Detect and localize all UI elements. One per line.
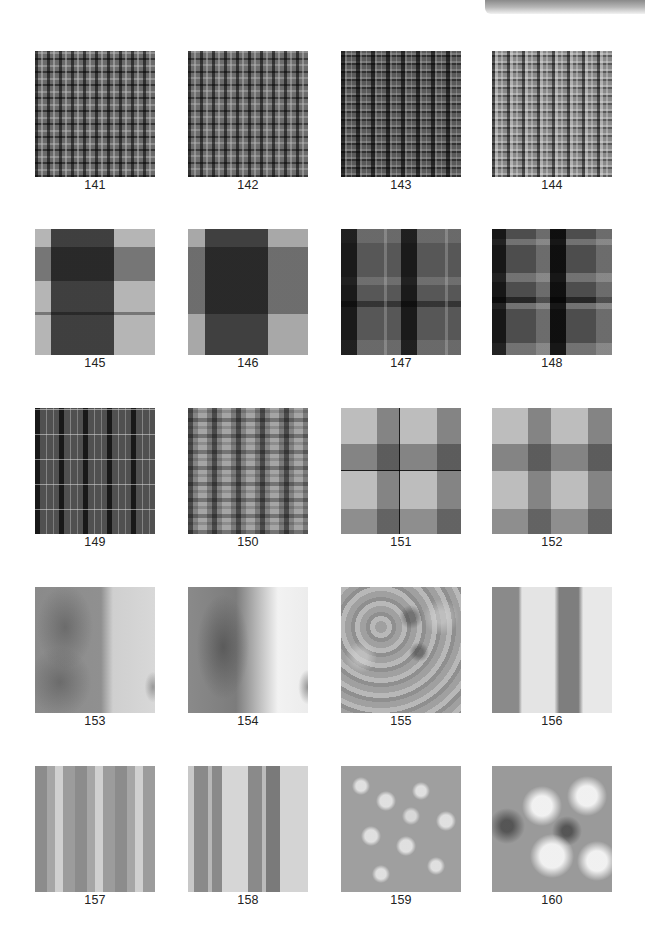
texture-swatch — [492, 229, 612, 355]
tile-label: 157 — [35, 893, 155, 907]
tile-label: 159 — [341, 893, 461, 907]
tile-label: 152 — [492, 535, 612, 549]
texture-tile-153[interactable]: 153 — [35, 587, 155, 728]
texture-swatch — [35, 51, 155, 177]
texture-swatch — [492, 51, 612, 177]
tile-label: 144 — [492, 178, 612, 192]
texture-swatch — [188, 229, 308, 355]
tile-label: 160 — [492, 893, 612, 907]
texture-tile-143[interactable]: 143 — [341, 51, 461, 192]
texture-swatch — [188, 766, 308, 892]
tile-label: 145 — [35, 356, 155, 370]
texture-tile-160[interactable]: 160 — [492, 766, 612, 907]
texture-tile-142[interactable]: 142 — [188, 51, 308, 192]
tile-label: 150 — [188, 535, 308, 549]
texture-swatch — [188, 51, 308, 177]
texture-swatch — [35, 766, 155, 892]
tile-label: 143 — [341, 178, 461, 192]
texture-swatch — [492, 408, 612, 534]
texture-tile-151[interactable]: 151 — [341, 408, 461, 549]
texture-swatch — [341, 408, 461, 534]
tile-label: 147 — [341, 356, 461, 370]
texture-swatch — [35, 408, 155, 534]
texture-tile-145[interactable]: 145 — [35, 229, 155, 370]
texture-tile-158[interactable]: 158 — [188, 766, 308, 907]
tile-label: 153 — [35, 714, 155, 728]
tile-label: 149 — [35, 535, 155, 549]
texture-tile-144[interactable]: 144 — [492, 51, 612, 192]
tile-label: 148 — [492, 356, 612, 370]
texture-swatch — [341, 587, 461, 713]
texture-swatch — [492, 766, 612, 892]
tile-label: 155 — [341, 714, 461, 728]
texture-swatch — [492, 587, 612, 713]
page-corner-tab — [485, 0, 645, 14]
texture-swatch — [341, 766, 461, 892]
texture-tile-152[interactable]: 152 — [492, 408, 612, 549]
texture-swatch — [35, 587, 155, 713]
tile-label: 158 — [188, 893, 308, 907]
texture-swatch — [188, 587, 308, 713]
texture-tile-147[interactable]: 147 — [341, 229, 461, 370]
texture-tile-148[interactable]: 148 — [492, 229, 612, 370]
tile-label: 156 — [492, 714, 612, 728]
texture-swatch — [341, 51, 461, 177]
texture-tile-146[interactable]: 146 — [188, 229, 308, 370]
tile-label: 141 — [35, 178, 155, 192]
texture-tile-156[interactable]: 156 — [492, 587, 612, 728]
texture-swatch — [35, 229, 155, 355]
texture-tile-159[interactable]: 159 — [341, 766, 461, 907]
tile-label: 142 — [188, 178, 308, 192]
texture-tile-157[interactable]: 157 — [35, 766, 155, 907]
texture-tile-155[interactable]: 155 — [341, 587, 461, 728]
tile-label: 146 — [188, 356, 308, 370]
texture-swatch — [341, 229, 461, 355]
texture-tile-141[interactable]: 141 — [35, 51, 155, 192]
texture-tile-150[interactable]: 150 — [188, 408, 308, 549]
texture-tile-154[interactable]: 154 — [188, 587, 308, 728]
tile-label: 151 — [341, 535, 461, 549]
texture-swatch — [188, 408, 308, 534]
tile-label: 154 — [188, 714, 308, 728]
texture-tile-149[interactable]: 149 — [35, 408, 155, 549]
